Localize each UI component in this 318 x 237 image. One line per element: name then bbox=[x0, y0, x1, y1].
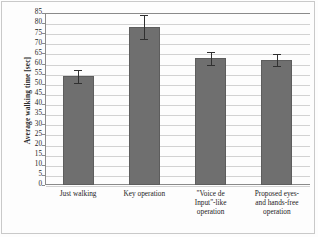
y-axis-tick-label: 60 bbox=[20, 60, 42, 67]
error-bar bbox=[78, 70, 79, 83]
error-bar-cap-lower bbox=[74, 83, 82, 84]
y-axis-tick-label: 45 bbox=[20, 90, 42, 97]
y-axis-tick-mark bbox=[42, 185, 45, 186]
x-axis-label-line: and hands-free bbox=[244, 198, 310, 207]
gridline bbox=[46, 44, 310, 45]
y-axis-tick-labels: 0510152025303540455055606570758085 bbox=[16, 13, 42, 185]
x-axis-category-label: Proposed eyes-and hands-freeoperation bbox=[244, 189, 310, 217]
y-axis-tick-label: 75 bbox=[20, 30, 42, 37]
x-axis-label-line: Input"-like bbox=[178, 198, 244, 207]
x-axis-label-line: Just walking bbox=[45, 189, 111, 198]
x-axis-label-line: operation bbox=[178, 207, 244, 216]
x-axis-category-label: Just walking bbox=[45, 189, 111, 198]
y-axis-tick-label: 40 bbox=[20, 100, 42, 107]
error-bar-cap-lower bbox=[207, 65, 215, 66]
x-axis-category-label: Key operation bbox=[111, 189, 177, 198]
y-axis-tick-label: 30 bbox=[20, 121, 42, 128]
gridline bbox=[46, 34, 310, 35]
x-axis-category-label: "Voice deInput"-likeoperation bbox=[178, 189, 244, 217]
y-axis-tick-label: 85 bbox=[20, 9, 42, 16]
gridline bbox=[46, 24, 310, 25]
bar bbox=[129, 27, 160, 185]
x-axis-label-line: operation bbox=[244, 207, 310, 216]
error-bar bbox=[144, 15, 145, 39]
y-axis-tick-label: 25 bbox=[20, 131, 42, 138]
x-axis-label-line: "Voice de bbox=[178, 189, 244, 198]
error-bar-cap-lower bbox=[140, 39, 148, 40]
x-axis-label-line: Key operation bbox=[111, 189, 177, 198]
y-axis-tick-label: 35 bbox=[20, 110, 42, 117]
y-axis-tick-label: 70 bbox=[20, 40, 42, 47]
error-bar-cap-upper bbox=[74, 70, 82, 71]
error-bar-cap-lower bbox=[273, 66, 281, 67]
error-bar bbox=[277, 54, 278, 65]
y-axis-tick-label: 55 bbox=[20, 70, 42, 77]
bar-chart-figure: Average walking time [sec] 0510152025303… bbox=[0, 0, 318, 237]
bar bbox=[63, 76, 94, 185]
error-bar bbox=[211, 52, 212, 64]
y-axis-tick-label: 80 bbox=[20, 19, 42, 26]
bar bbox=[261, 60, 292, 185]
y-axis-tick-label: 50 bbox=[20, 80, 42, 87]
y-axis-tick-label: 65 bbox=[20, 50, 42, 57]
x-axis-label-line: Proposed eyes- bbox=[244, 189, 310, 198]
error-bar-cap-upper bbox=[273, 54, 281, 55]
gridline bbox=[46, 186, 310, 187]
bar bbox=[195, 58, 226, 185]
gridline bbox=[46, 54, 310, 55]
y-axis-tick-label: 5 bbox=[20, 171, 42, 178]
error-bar-cap-upper bbox=[207, 52, 215, 53]
y-axis-tick-label: 20 bbox=[20, 141, 42, 148]
y-axis-tick-label: 10 bbox=[20, 161, 42, 168]
error-bar-cap-upper bbox=[140, 15, 148, 16]
y-axis-tick-label: 15 bbox=[20, 151, 42, 158]
y-axis-tick-label: 0 bbox=[20, 181, 42, 188]
